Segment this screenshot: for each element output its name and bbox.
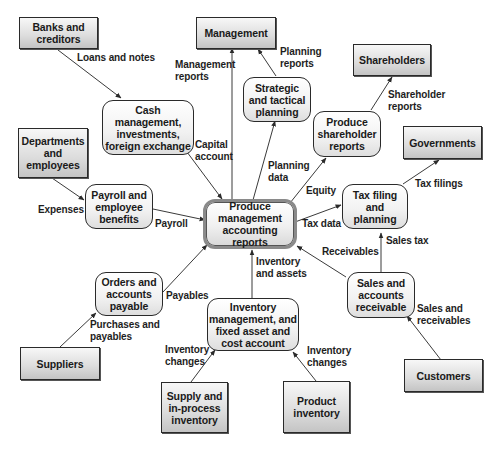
flow-label-inventory-changes-right: Inventory changes bbox=[307, 345, 351, 369]
flow-label-purchases-and-payables: Purchases and payables bbox=[90, 319, 160, 343]
flow-label-payables: Payables bbox=[166, 290, 209, 302]
flow-label-management-reports: Management reports bbox=[175, 59, 235, 83]
flow-label-payroll: Payroll bbox=[155, 218, 188, 230]
entity-departments-and-employees: Departments and employees bbox=[18, 128, 88, 178]
entity-shareholders: Shareholders bbox=[353, 44, 431, 76]
flow-label-sales-tax: Sales tax bbox=[386, 235, 428, 247]
process-tax-filing-and-planning: Tax filing and planning bbox=[342, 184, 408, 229]
process-orders-and-accounts-payable: Orders and accounts payable bbox=[95, 272, 163, 316]
flow-label-capital-account: Capital account bbox=[195, 139, 233, 163]
process-sales-and-accounts-receivable: Sales and accounts receivable bbox=[347, 272, 415, 318]
flow-label-equity: Equity bbox=[306, 185, 336, 197]
process-produce-shareholder-reports: Produce shareholder reports bbox=[313, 111, 381, 157]
process-payroll-and-employee-benefits: Payroll and employee benefits bbox=[85, 184, 153, 229]
flow-label-inventory-and-assets: Inventory and assets bbox=[256, 256, 307, 280]
process-inventory-management: Inventory management, and fixed asset an… bbox=[207, 298, 299, 351]
entity-banks-and-creditors: Banks and creditors bbox=[19, 17, 98, 49]
flow-label-expenses: Expenses bbox=[38, 204, 84, 216]
flow-label-tax-filings: Tax filings bbox=[415, 178, 463, 190]
entity-supply-and-in-process-inventory: Supply and in-process inventory bbox=[161, 382, 228, 433]
flow-label-planning-reports: Planning reports bbox=[280, 46, 321, 70]
process-produce-management-accounting-reports: Produce management accounting reports bbox=[203, 199, 297, 249]
flow-label-sales-and-receivables: Sales and receivables bbox=[417, 303, 470, 327]
accounting-data-flow-diagram: Banks and creditors Management Sharehold… bbox=[0, 0, 496, 450]
flow-label-shareholder-reports: Shareholder reports bbox=[388, 89, 445, 113]
flow-label-planning-data: Planning data bbox=[268, 160, 309, 184]
flow-label-loans-and-notes: Loans and notes bbox=[77, 52, 155, 64]
process-cash-management: Cash management, investments, foreign ex… bbox=[102, 100, 194, 155]
flow-label-receivables: Receivables bbox=[322, 246, 379, 258]
entity-product-inventory: Product inventory bbox=[283, 381, 350, 433]
entity-governments: Governments bbox=[403, 126, 482, 159]
entity-suppliers: Suppliers bbox=[20, 347, 100, 380]
flow-label-inventory-changes-left: Inventory changes bbox=[165, 344, 209, 368]
process-strategic-and-tactical-planning: Strategic and tactical planning bbox=[243, 77, 311, 122]
flow-label-tax-data: Tax data bbox=[302, 218, 341, 230]
entity-customers: Customers bbox=[404, 359, 483, 392]
entity-management: Management bbox=[196, 17, 276, 49]
